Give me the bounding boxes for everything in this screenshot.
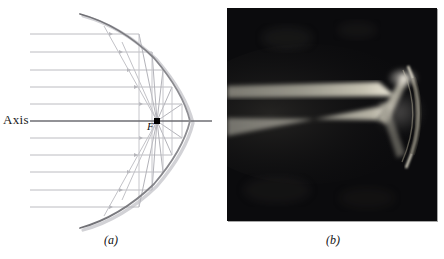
parabolic-mirror-diagram bbox=[0, 0, 222, 259]
incoming-rays-upper bbox=[30, 34, 182, 104]
mirror-glow bbox=[373, 90, 425, 134]
caption-b: (b) bbox=[222, 233, 444, 248]
optics-figure: Axis F (a) bbox=[0, 0, 444, 259]
photograph-frame bbox=[227, 8, 437, 221]
panel-a-ray-diagram: Axis F (a) bbox=[0, 0, 222, 259]
focal-hotspot bbox=[387, 67, 419, 89]
caption-a: (a) bbox=[0, 233, 222, 248]
chord-upper-1 bbox=[104, 26, 157, 121]
axis-label: Axis bbox=[3, 112, 29, 128]
focal-point-marker bbox=[154, 118, 160, 124]
panel-b-photograph: (b) bbox=[222, 0, 444, 259]
chord-lower-1 bbox=[104, 121, 157, 216]
focal-point-label: F bbox=[147, 120, 154, 132]
reflected-rays-upper bbox=[139, 34, 182, 121]
incoming-rays-lower bbox=[30, 138, 182, 207]
mirror-photograph bbox=[227, 8, 437, 221]
